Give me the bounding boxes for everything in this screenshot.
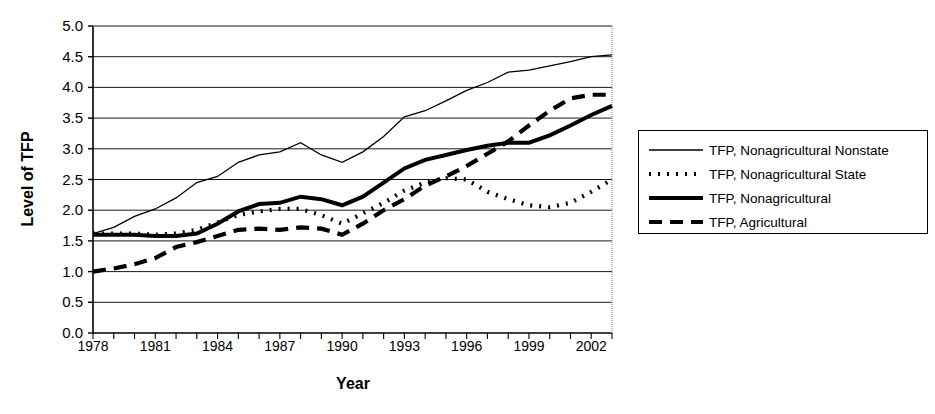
legend-swatch-icon	[647, 215, 705, 229]
series-line-3	[93, 95, 612, 272]
series-line-0	[93, 55, 612, 234]
series-line-1	[93, 178, 612, 234]
legend-item: TFP, Nonagricultural State	[647, 161, 923, 187]
legend-swatch-icon	[647, 143, 705, 157]
legend-label: TFP, Agricultural	[709, 215, 807, 230]
legend-item: TFP, Agricultural	[647, 209, 923, 235]
series-line-2	[93, 106, 612, 236]
tfp-line-chart: Level of TFP Year 0.00.51.01.52.02.53.03…	[0, 0, 935, 414]
legend-label: TFP, Nonagricultural Nonstate	[709, 143, 889, 158]
legend-label: TFP, Nonagricultural	[709, 191, 831, 206]
legend-label: TFP, Nonagricultural State	[709, 167, 866, 182]
legend-item: TFP, Nonagricultural	[647, 185, 923, 211]
legend-swatch-icon	[647, 167, 705, 181]
legend: TFP, Nonagricultural NonstateTFP, Nonagr…	[638, 130, 928, 234]
legend-swatch-icon	[647, 191, 705, 205]
legend-item: TFP, Nonagricultural Nonstate	[647, 137, 923, 163]
